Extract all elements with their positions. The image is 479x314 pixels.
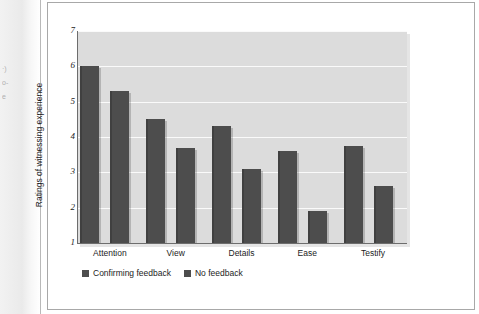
gridline: [78, 31, 407, 32]
bar: [110, 91, 129, 243]
legend-label: Confirming feedback: [93, 268, 171, 278]
y-axis-ticks: 1234567: [56, 31, 75, 243]
y-tick-label: 6: [57, 60, 75, 70]
screenshot-root: ·) o- e Ratings of witnessing experience…: [0, 0, 479, 314]
y-tick-label: 4: [57, 131, 75, 141]
margin-fragment-2: e: [2, 90, 24, 104]
chart-legend: Confirming feedbackNo feedback: [82, 268, 243, 278]
x-tick-label: View: [143, 248, 209, 258]
gridline: [78, 66, 407, 67]
x-tick-label: Ease: [274, 248, 340, 258]
bar: [212, 126, 231, 243]
x-tick-label: Details: [209, 248, 275, 258]
margin-text-fragments: ·) o- e: [2, 62, 24, 104]
legend-label: No feedback: [195, 268, 243, 278]
y-axis-label: Ratings of witnessing experience: [34, 60, 48, 230]
margin-fragment-0: ·): [2, 62, 24, 76]
bar: [242, 169, 261, 243]
plot-area: [77, 31, 407, 244]
y-tick-label: 7: [57, 25, 75, 35]
y-tick-label: 3: [57, 166, 75, 176]
bar: [146, 119, 165, 243]
legend-item: No feedback: [184, 268, 243, 278]
bar: [176, 148, 195, 243]
bar: [278, 151, 297, 243]
y-tick-label: 1: [57, 237, 75, 247]
y-tick-label: 2: [57, 202, 75, 212]
legend-swatch-icon: [82, 270, 89, 277]
bar-chart: Ratings of witnessing experience 1234567…: [56, 18, 456, 293]
margin-fragment-1: o-: [2, 76, 24, 90]
legend-item: Confirming feedback: [82, 268, 171, 278]
bar: [80, 66, 99, 243]
bar: [374, 186, 393, 243]
x-tick-label: Attention: [77, 248, 143, 258]
x-tick-label: Testify: [340, 248, 406, 258]
y-tick-label: 5: [57, 96, 75, 106]
bar: [344, 146, 363, 243]
bar: [308, 211, 327, 243]
legend-swatch-icon: [184, 270, 191, 277]
